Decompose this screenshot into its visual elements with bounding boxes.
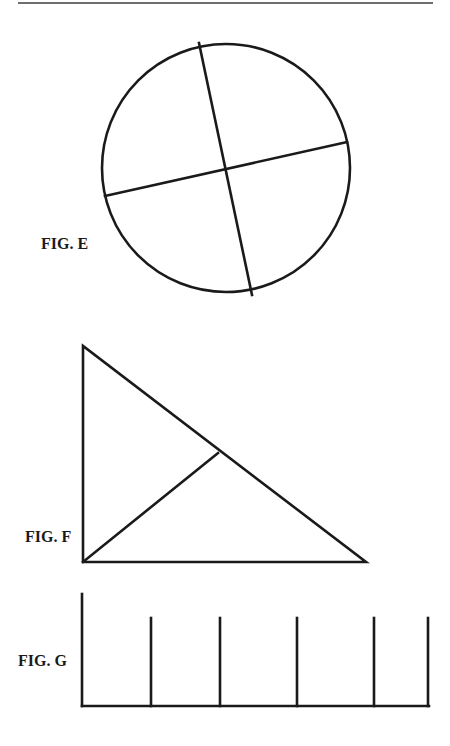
fig-e-circle-diagram xyxy=(102,43,350,295)
figure-canvas xyxy=(0,0,450,746)
fig-f-right-triangle xyxy=(83,346,366,562)
fig-e-diameter-shallow xyxy=(105,142,347,196)
fig-e-label: FIG. E xyxy=(41,236,88,252)
fig-g-label: FIG. G xyxy=(18,653,67,669)
fig-f-label: FIG. F xyxy=(25,529,71,545)
fig-f-dividing-line xyxy=(83,453,218,562)
fig-f-triangle-diagram xyxy=(83,346,366,562)
fig-g-posts-diagram xyxy=(82,594,429,706)
fig-g-short-posts xyxy=(151,618,428,706)
